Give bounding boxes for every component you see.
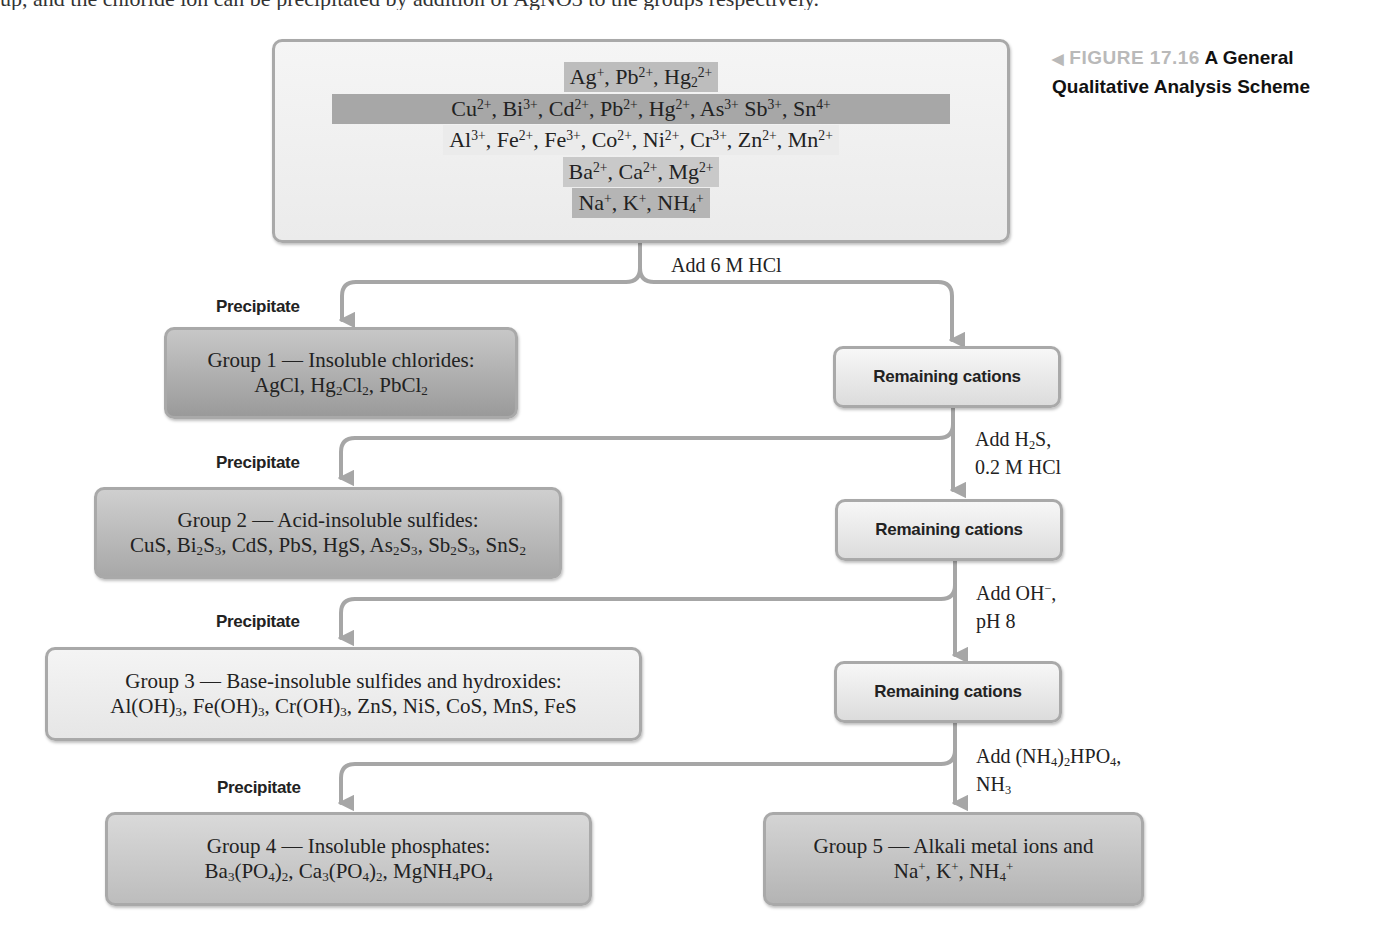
ion-row-group4: Ba2+, Ca2+, Mg2+	[563, 157, 720, 187]
arrow-to-group3	[341, 585, 955, 638]
remaining-cations-1: Remaining cations	[833, 346, 1061, 408]
reagent-step3: Add OH−, pH 8	[976, 579, 1056, 635]
left-triangle-icon: ◀	[1052, 50, 1064, 67]
precipitate-label-2: Precipitate	[216, 453, 300, 473]
group2-title: Group 2 — Acid-insoluble sulfides:	[178, 508, 479, 533]
figure-caption: ◀ FIGURE 17.16 A General Qualitative Ana…	[1052, 44, 1310, 101]
precipitate-label-1: Precipitate	[216, 297, 300, 317]
remaining-cations-2: Remaining cations	[835, 499, 1063, 561]
group5-box: Group 5 — Alkali metal ions and Na+, K+,…	[763, 812, 1144, 906]
precipitate-label-4: Precipitate	[217, 778, 301, 798]
remaining-cations-3: Remaining cations	[834, 661, 1062, 723]
group4-box: Group 4 — Insoluble phosphates: Ba3(PO4)…	[105, 812, 592, 906]
arrow-to-group2	[341, 424, 953, 478]
reagent-step1: Add 6 M HCl	[671, 251, 782, 279]
group1-title: Group 1 — Insoluble chlorides:	[207, 348, 474, 373]
reagent-step2: Add H2S, 0.2 M HCl	[975, 425, 1061, 481]
group4-title: Group 4 — Insoluble phosphates:	[207, 834, 490, 859]
group2-compounds: CuS, Bi2S3, CdS, PbS, HgS, As2S3, Sb2S3,…	[130, 533, 526, 558]
ion-row-group1: Ag+, Pb2+, Hg22+	[564, 62, 719, 92]
starting-solution-box: Ag+, Pb2+, Hg22+ Cu2+, Bi3+, Cd2+, Pb2+,…	[272, 39, 1010, 243]
group2-box: Group 2 — Acid-insoluble sulfides: CuS, …	[94, 487, 562, 579]
group4-compounds: Ba3(PO4)2, Ca3(PO4)2, MgNH4PO4	[205, 859, 493, 884]
group5-title: Group 5 — Alkali metal ions and	[814, 834, 1094, 859]
precipitate-label-3: Precipitate	[216, 612, 300, 632]
reagent-step4: Add (NH4)2HPO4, NH3	[976, 742, 1121, 798]
ion-row-group5: Na+, K+, NH4+	[572, 188, 709, 218]
group3-box: Group 3 — Base-insoluble sulfides and hy…	[45, 647, 642, 741]
group1-box: Group 1 — Insoluble chlorides: AgCl, Hg2…	[164, 327, 518, 419]
figure-title-line1: A General	[1204, 47, 1293, 68]
group5-ions: Na+, K+, NH4+	[894, 859, 1014, 884]
group3-compounds: Al(OH)3, Fe(OH)3, Cr(OH)3, ZnS, NiS, CoS…	[110, 694, 576, 719]
ion-row-group2: Cu2+, Bi3+, Cd2+, Pb2+, Hg2+, As3+ Sb3+,…	[332, 94, 950, 124]
figure-number: FIGURE 17.16	[1069, 47, 1200, 68]
group1-compounds: AgCl, Hg2Cl2, PbCl2	[254, 373, 428, 398]
arrow-to-group4	[341, 750, 955, 803]
ion-row-group3: Al3+, Fe2+, Fe3+, Co2+, Ni2+, Cr3+, Zn2+…	[443, 125, 839, 155]
figure-title-line2: Qualitative Analysis Scheme	[1052, 73, 1310, 101]
group3-title: Group 3 — Base-insoluble sulfides and hy…	[125, 669, 561, 694]
arrow-to-group1	[342, 243, 640, 320]
